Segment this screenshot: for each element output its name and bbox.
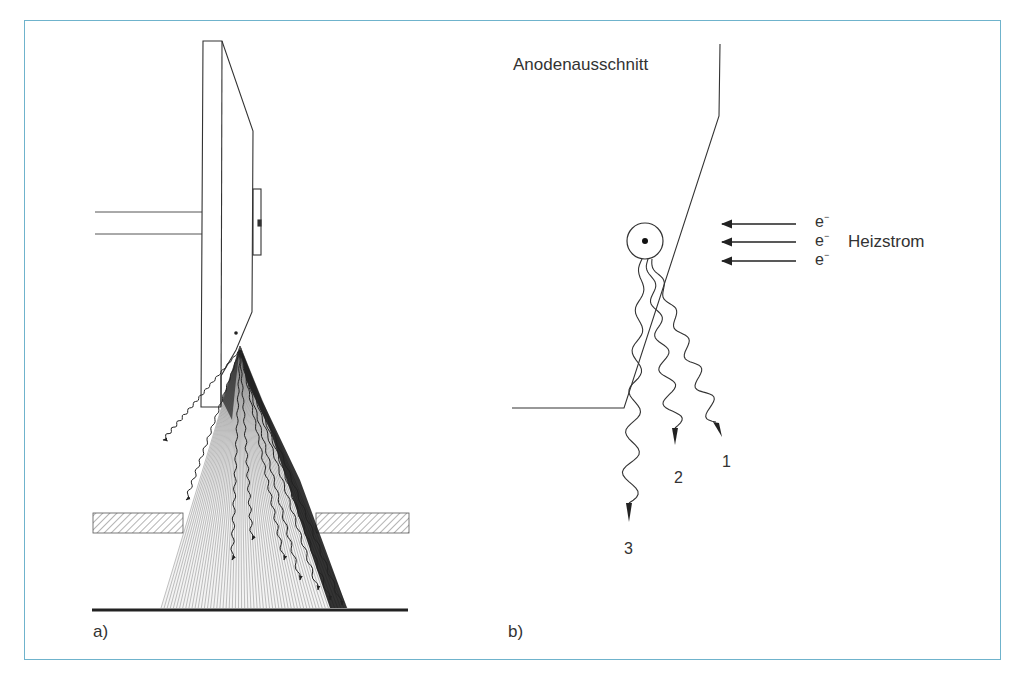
heating-current-label: Heizstrom — [848, 233, 925, 250]
electron-arrows — [722, 224, 796, 261]
filament — [627, 223, 663, 259]
diagram-canvas — [0, 0, 1022, 676]
electron-symbol: e — [815, 251, 824, 268]
electron-charge: − — [824, 231, 829, 241]
panel-b — [512, 44, 796, 522]
anode-shaft — [95, 212, 202, 234]
ray-label-1: 1 — [722, 454, 731, 470]
anode-section-label: Anodenausschnitt — [513, 56, 648, 73]
electron-label-3: e− — [815, 252, 829, 268]
electron-symbol: e — [815, 213, 824, 230]
panel-b-label: b) — [508, 623, 523, 640]
electron-label-2: e− — [815, 233, 829, 249]
ray-label-2: 2 — [674, 470, 683, 486]
electron-label-1: e− — [815, 214, 829, 230]
electron-symbol: e — [815, 232, 824, 249]
x-ray-paths — [622, 259, 716, 503]
panel-a-label: a) — [93, 623, 108, 640]
anode-outline — [512, 44, 720, 408]
ray-1 — [652, 259, 716, 422]
x-ray-beam — [161, 346, 347, 608]
anode-disk — [201, 41, 261, 407]
electron-charge: − — [824, 212, 829, 222]
ray-label-3: 3 — [624, 541, 633, 557]
panel-a — [92, 41, 409, 610]
electron-charge: − — [824, 250, 829, 260]
